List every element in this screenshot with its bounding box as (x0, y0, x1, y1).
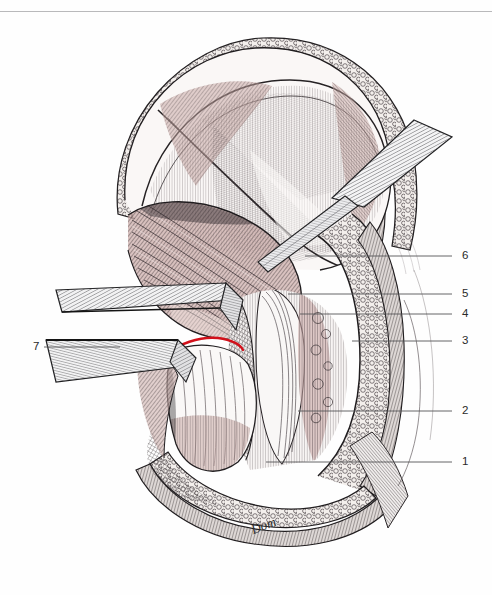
label-number-7: 7 (33, 341, 39, 353)
label-number-4: 4 (462, 308, 468, 320)
label-number-2: 2 (462, 405, 468, 417)
label-number-1: 1 (462, 456, 468, 468)
figure-root: 1234567 Dom (0, 0, 492, 595)
fascia-wisps (392, 228, 420, 274)
label-number-6: 6 (462, 250, 468, 262)
label-number-5: 5 (462, 288, 468, 300)
label-number-3: 3 (462, 335, 468, 347)
anatomical-illustration (0, 0, 492, 595)
